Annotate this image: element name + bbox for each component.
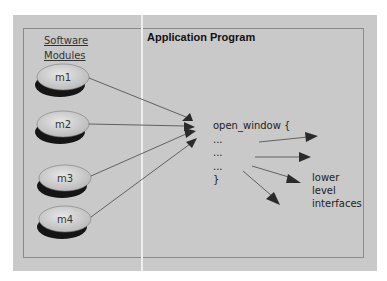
target-label-line: lower (312, 171, 362, 184)
target-label-line: interfaces (312, 197, 362, 210)
lower-level-interfaces-label: lower level interfaces (312, 171, 362, 210)
module-m1: m1 (35, 64, 89, 97)
arrowhead-icon (266, 192, 280, 205)
arrowhead-icon (184, 128, 196, 138)
module-m1-label: m1 (55, 72, 71, 83)
module-m3-label: m3 (57, 173, 73, 184)
code-line: ... (213, 160, 290, 174)
module-m4-label: m4 (57, 214, 73, 225)
module-m3: m3 (37, 165, 91, 198)
arrowhead-icon (305, 132, 318, 142)
incoming-arrowheads (182, 113, 197, 148)
open-window-code: open_window { ... ... ... } (213, 119, 290, 187)
diagram-graphics: m1 m2 m3 m4 (0, 0, 387, 281)
code-line: open_window { (213, 119, 290, 133)
arrowhead-icon (182, 113, 193, 121)
module-m2: m2 (35, 111, 89, 144)
code-line: ... (213, 133, 290, 147)
target-label-line: level (312, 184, 362, 197)
incoming-arrows (89, 78, 190, 217)
module-m2-label: m2 (55, 119, 71, 130)
arrowhead-icon (186, 138, 197, 148)
code-line: ... (213, 146, 290, 160)
arrowhead-icon (299, 152, 311, 162)
code-line: } (213, 173, 290, 187)
module-m4: m4 (37, 206, 91, 239)
